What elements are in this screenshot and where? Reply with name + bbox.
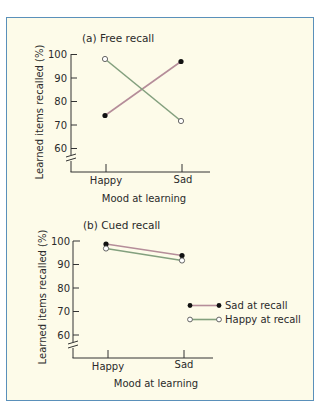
panel-b-xtick-label: Sad <box>175 359 194 370</box>
panel-b-ytick-label: 90 <box>57 259 70 270</box>
filled-circle-marker-icon <box>188 303 193 308</box>
panel-a-x-axis-label: Mood at learning <box>102 193 186 204</box>
panel-b-axis-break-icon <box>68 341 78 348</box>
open-circle-marker-icon <box>217 317 222 322</box>
open-circle-marker-icon <box>188 317 193 322</box>
panel-a-ytick-label: 70 <box>54 120 67 131</box>
figure-canvas: (a) Free recall Learned items recalled (… <box>0 0 336 416</box>
panel-b-ytick-label: 60 <box>57 330 70 341</box>
panel-b-ytick-label: 100 <box>51 236 70 247</box>
panel-a-happy-sad-point <box>178 118 183 123</box>
panel-a-ytick-label: 100 <box>48 49 67 60</box>
panel-a-ytick-label: 80 <box>54 96 67 107</box>
panel-b-ytick-label: 70 <box>57 306 70 317</box>
panel-a-y-axis-label: Learned items recalled (%) <box>34 44 45 179</box>
panel-a-sad-sad-point <box>178 59 183 64</box>
panel-a-ytick-label: 60 <box>54 143 67 154</box>
panel-b-xtick-label: Happy <box>92 361 124 372</box>
legend-item-sad-at-recall: Sad at recall <box>188 300 288 311</box>
panel-b-legend: Sad at recall Happy at recall <box>188 300 301 325</box>
panel-b-cued-recall: (b) Cued recall Learned items recalled (… <box>37 219 301 389</box>
panel-b-happy-sad-point <box>179 258 184 263</box>
panel-b-y-ticks: 100 90 80 70 60 <box>51 236 80 341</box>
panel-a-xtick-label: Sad <box>174 174 193 185</box>
panel-a-xtick-label: Happy <box>90 175 122 186</box>
panel-a-sad-at-recall-line <box>105 62 181 116</box>
panel-a-free-recall: (a) Free recall Learned items recalled (… <box>34 32 210 204</box>
panel-a-sad-happy-point <box>102 113 107 118</box>
legend-label: Happy at recall <box>225 314 301 325</box>
panel-b-y-axis-label: Learned items recalled (%) <box>37 229 48 364</box>
panel-b-sad-sad-point <box>179 253 184 258</box>
panel-b-ytick-label: 80 <box>57 283 70 294</box>
filled-circle-marker-icon <box>217 303 222 308</box>
panel-b-title: (b) Cued recall <box>83 219 160 231</box>
panel-a-axis-break-icon <box>66 154 76 161</box>
panel-a-title: (a) Free recall <box>82 32 154 44</box>
legend-label: Sad at recall <box>225 300 287 311</box>
panel-a-happy-happy-point <box>102 56 107 61</box>
panel-a-y-ticks: 100 90 80 70 60 <box>48 49 77 154</box>
panel-b-happy-happy-point <box>103 246 108 251</box>
panel-b-x-axis-label: Mood at learning <box>114 378 198 389</box>
panel-a-happy-at-recall-line <box>105 59 181 121</box>
legend-item-happy-at-recall: Happy at recall <box>188 314 301 325</box>
panel-a-ytick-label: 90 <box>54 73 67 84</box>
